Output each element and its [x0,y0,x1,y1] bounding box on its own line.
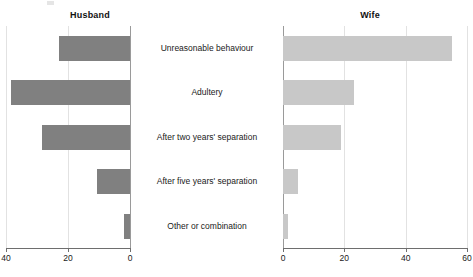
bar-husband-4 [124,214,130,239]
tick-wife [406,248,407,252]
tick-wife [344,248,345,252]
bar-husband-2 [42,125,130,150]
category-label: After five years' separation [157,177,257,186]
bar-row-wife [283,115,467,159]
tick-label-wife: 40 [401,253,410,263]
tick-husband [68,248,69,252]
gridline-wife [467,26,468,248]
category-row: After five years' separation [133,159,281,203]
category-row: Adultery [133,70,281,114]
bar-row-husband [6,159,130,203]
bar-wife-2 [283,125,341,150]
tick-label-wife: 0 [281,253,286,263]
axis-spine-husband [130,26,131,248]
scan-artifact-mark [47,1,54,5]
bar-husband-1 [11,80,130,105]
category-row: After two years' separation [133,115,281,159]
category-row: Unreasonable behaviour [133,26,281,70]
bar-row-wife [283,159,467,203]
tick-husband [130,248,131,252]
tick-wife [283,248,284,252]
tick-husband [6,248,7,252]
bar-row-wife [283,26,467,70]
category-label: Unreasonable behaviour [161,44,254,53]
bar-wife-4 [283,214,288,239]
bar-row-husband [6,70,130,114]
tick-label-husband: 20 [63,253,72,263]
category-row: Other or combination [133,204,281,248]
plot-area-wife [283,26,467,248]
category-label-column: Unreasonable behaviourAdulteryAfter two … [133,26,281,248]
bar-row-husband [6,26,130,70]
bar-chart: Husband Wife Unreasonable behaviourAdult… [0,0,473,277]
category-label: Other or combination [167,222,246,231]
category-label: After two years' separation [157,133,257,142]
panel-title-wife: Wife [320,10,420,20]
bar-husband-0 [59,36,130,61]
bar-wife-1 [283,80,354,105]
tick-label-wife: 20 [340,253,349,263]
tick-label-husband: 0 [128,253,133,263]
bar-row-wife [283,70,467,114]
bar-husband-3 [97,169,130,194]
bar-wife-0 [283,36,452,61]
bar-row-husband [6,115,130,159]
tick-label-husband: 40 [1,253,10,263]
axis-line-wife [283,248,467,249]
tick-label-wife: 60 [462,253,471,263]
bar-wife-3 [283,169,298,194]
panel-title-husband: Husband [40,10,140,20]
tick-wife [467,248,468,252]
bar-row-wife [283,204,467,248]
x-axis-husband: 40200 [6,248,130,270]
x-axis-wife: 0204060 [283,248,467,270]
category-label: Adultery [191,88,222,97]
plot-area-husband [6,26,130,248]
bar-row-husband [6,204,130,248]
